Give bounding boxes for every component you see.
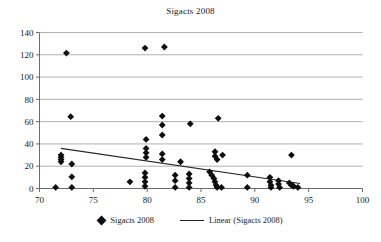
y-tick-label: 80 (25, 95, 35, 105)
data-point-diamond (244, 184, 251, 191)
x-tick-label: 70 (35, 195, 45, 205)
y-tick-label: 140 (20, 28, 34, 38)
data-point-diamond (288, 152, 295, 159)
chart-legend: Sigacts 2008 Linear (Sigacts 2008) (0, 216, 381, 225)
data-point-diamond (68, 184, 75, 191)
x-tick-label: 100 (356, 195, 370, 205)
data-point-diamond (159, 156, 166, 163)
y-tick-label: 0 (29, 184, 34, 194)
x-tick-label: 75 (89, 195, 99, 205)
y-tick-label: 40 (25, 139, 35, 149)
legend-item-linear-trend: Linear (Sigacts 2008) (180, 216, 283, 225)
data-point-diamond (161, 44, 168, 51)
y-tick-label: 60 (25, 117, 35, 127)
legend-label-linear-trend: Linear (Sigacts 2008) (209, 216, 283, 225)
data-point-diamond (127, 178, 134, 185)
data-point-diamond (67, 113, 74, 120)
data-point-diamond (177, 158, 184, 165)
line-marker-icon (180, 220, 204, 221)
data-point-diamond (142, 45, 149, 52)
data-point-diamond (143, 136, 150, 143)
scatter-plot: 020406080100120140707580859095100 (0, 0, 381, 242)
diamond-marker-icon (97, 215, 107, 225)
x-tick-label: 80 (143, 195, 153, 205)
data-point-diamond (172, 184, 179, 191)
data-point-diamond (172, 177, 179, 184)
data-point-diamond (68, 173, 75, 180)
x-tick-label: 95 (304, 195, 314, 205)
y-tick-label: 100 (20, 72, 34, 82)
data-point-diamond (244, 172, 251, 179)
data-point-diamond (143, 154, 150, 161)
chart-screenshot: Sigacts 2008 020406080100120140707580859… (0, 0, 381, 242)
data-point-diamond (52, 184, 59, 191)
data-point-diamond (215, 115, 222, 122)
x-tick-label: 85 (197, 195, 207, 205)
data-point-diamond (186, 184, 193, 191)
y-tick-label: 20 (25, 161, 35, 171)
data-point-diamond (159, 132, 166, 139)
legend-label-sigacts: Sigacts 2008 (110, 216, 154, 225)
data-point-diamond (159, 113, 166, 120)
data-point-diamond (219, 152, 226, 159)
data-point-diamond (159, 122, 166, 129)
y-tick-label: 120 (20, 50, 34, 60)
legend-item-sigacts: Sigacts 2008 (98, 216, 154, 225)
data-point-diamond (63, 50, 70, 57)
x-tick-label: 90 (250, 195, 260, 205)
